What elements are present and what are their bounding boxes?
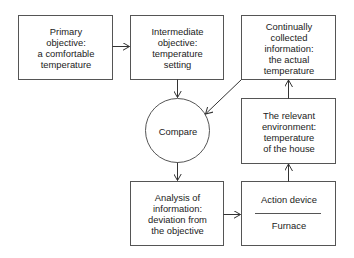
node-intermediate-label: Intermediate objective: temperature sett… [131,16,224,80]
node-analysis-label: Analysis of information: deviation from … [131,182,224,246]
node-primary-label: Primary objective: a comfortable tempera… [19,16,113,80]
node-collected-label: Continually collected information: the a… [242,16,336,80]
node-compare-label: Compare [146,99,210,163]
node-action-top-label: Action device [242,190,336,208]
node-environment-label: The relevant environment: temperature of… [242,99,336,164]
edge-collected-to-compare [206,80,242,115]
node-action-bottom-label: Furnace [242,216,336,234]
